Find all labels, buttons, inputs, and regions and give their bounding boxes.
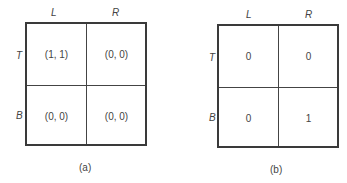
cell-B-L: (0, 0) [27,86,86,147]
payoff-matrix-a: (1, 1) (0, 0) (0, 0) (0, 0) [25,22,147,146]
cell-B-R: 1 [279,88,338,149]
caption-a: (a) [79,162,91,173]
row-label-T: T [16,50,22,61]
row-label-B: B [209,112,216,123]
column-label-R: R [305,9,312,20]
column-label-L: L [51,7,57,18]
row-label-T: T [209,52,215,63]
row-label-B: B [16,110,23,121]
column-label-R: R [112,7,119,18]
payoff-matrix-b: 0 0 0 1 [217,24,339,148]
caption-b: (b) [270,164,282,175]
cell-T-R: 0 [279,26,338,87]
column-label-L: L [246,9,252,20]
cell-B-R: (0, 0) [87,86,146,147]
cell-T-L: 0 [219,26,278,87]
cell-B-L: 0 [219,88,278,149]
cell-T-L: (1, 1) [27,24,86,85]
cell-T-R: (0, 0) [87,24,146,85]
